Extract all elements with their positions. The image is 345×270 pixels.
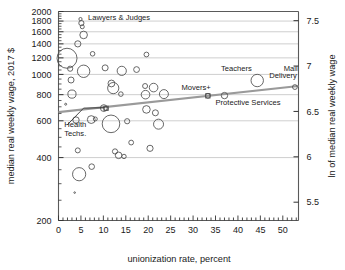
- y2-tick-label: 7: [307, 61, 312, 71]
- y-tick-label: 400: [36, 153, 51, 163]
- x-tick-label: 5: [78, 225, 83, 235]
- annotation-label: Movers+: [181, 83, 211, 92]
- x-tick-label: 20: [143, 225, 153, 235]
- y-tick-label: 2000: [31, 7, 51, 17]
- y-tick-label: 800: [36, 90, 51, 100]
- chart-figure: Lawyers & JudgesTeachersMailDeliveryMove…: [0, 0, 345, 270]
- y2-tick-label: 6.5: [307, 107, 320, 117]
- annotation-label: Delivery: [269, 71, 297, 80]
- x-tick-label: 15: [121, 225, 131, 235]
- annotation-label: Health: [64, 120, 86, 129]
- x-axis-title: unionization rate, percent: [127, 254, 231, 264]
- y2-tick-label: 6: [307, 152, 312, 162]
- annotation-label: Teachers: [221, 64, 252, 73]
- x-tick-label: 25: [166, 225, 176, 235]
- y-tick-label: 200: [36, 216, 51, 226]
- annotation-label: Protective Services: [216, 98, 281, 107]
- unionization-wage-scatter-chart: Lawyers & JudgesTeachersMailDeliveryMove…: [0, 0, 345, 270]
- x-tick-label: 45: [255, 225, 265, 235]
- y-tick-label: 1000: [31, 70, 51, 80]
- annotation-label: Techs.: [64, 129, 86, 138]
- x-tick-label: 40: [233, 225, 243, 235]
- y-tick-label: 1600: [31, 27, 51, 37]
- x-tick-label: 35: [210, 225, 220, 235]
- y-axis-title: median real weekly wage, 2017 $: [6, 48, 16, 184]
- y2-tick-label: 5.5: [307, 197, 320, 207]
- annotation-label: Lawyers & Judges: [88, 13, 150, 22]
- x-tick-label: 50: [278, 225, 288, 235]
- y-tick-label: 1800: [31, 16, 51, 26]
- x-tick-label: 0: [56, 225, 61, 235]
- x-tick-label: 10: [98, 225, 108, 235]
- y-tick-label: 1400: [31, 39, 51, 49]
- y-tick-label: 1200: [31, 53, 51, 63]
- y-tick-label: 600: [36, 116, 51, 126]
- y2-tick-label: 7.5: [307, 16, 320, 26]
- secondary-y-axis-title: ln of median real weekly wage: [327, 54, 337, 177]
- x-tick-label: 30: [188, 225, 198, 235]
